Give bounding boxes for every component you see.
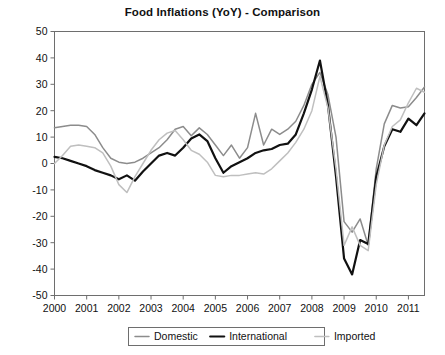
- series-line-imported: [55, 76, 425, 250]
- x-tick-label: 2010: [365, 302, 389, 314]
- y-tick-label: -40: [32, 263, 47, 275]
- chart-legend: DomesticInternationalImported: [129, 328, 376, 346]
- x-tick-label: 2008: [300, 302, 324, 314]
- chart-plot: -50-40-30-20-1001020304050 2000200120022…: [0, 0, 445, 355]
- series-line-domestic: [55, 72, 425, 245]
- x-tick-label: 2003: [139, 302, 163, 314]
- legend-label-domestic: Domestic: [154, 330, 198, 342]
- legend-label-international: International: [229, 330, 287, 342]
- legend-label-imported: Imported: [334, 330, 376, 342]
- x-tick-label: 2002: [107, 302, 131, 314]
- x-tick-label: 2006: [236, 302, 260, 314]
- chart-container: Food Inflations (YoY) - Comparison -50-4…: [0, 0, 445, 355]
- y-tick-label: 30: [36, 78, 48, 90]
- y-tick-label: 0: [42, 157, 48, 169]
- x-tick-label: 2009: [332, 302, 356, 314]
- x-tick-label: 2011: [397, 302, 420, 314]
- y-tick-label: 20: [36, 105, 48, 117]
- series-lines: [55, 61, 425, 275]
- y-tick-label: -30: [32, 237, 47, 249]
- y-tick-label: 40: [36, 52, 48, 64]
- y-tick-label: -50: [32, 289, 47, 301]
- x-tick-label: 2004: [172, 302, 196, 314]
- y-tick-label: -10: [32, 184, 47, 196]
- x-axis-ticks: 2000200120022003200420052006200720082009…: [43, 296, 420, 314]
- y-axis-ticks: -50-40-30-20-1001020304050: [32, 25, 54, 301]
- x-tick-label: 2005: [204, 302, 228, 314]
- x-tick-label: 2007: [268, 302, 292, 314]
- y-tick-label: 50: [36, 25, 48, 37]
- x-tick-label: 2001: [75, 302, 99, 314]
- y-tick-label: -20: [32, 210, 47, 222]
- y-tick-label: 10: [36, 131, 48, 143]
- x-tick-label: 2000: [43, 302, 67, 314]
